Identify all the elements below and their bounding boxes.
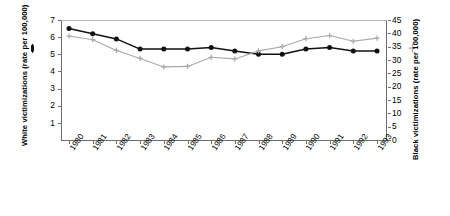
left-axis-tick xyxy=(58,20,61,21)
right-axis-tick-label: 35 xyxy=(392,42,414,50)
left-axis-tick-label: 4 xyxy=(33,67,55,75)
right-axis-tick xyxy=(388,33,391,34)
right-axis-tick xyxy=(388,20,391,21)
chart-figure: White victimizations (rate per 100,000) … xyxy=(0,0,450,216)
right-axis-tick xyxy=(388,113,391,114)
right-axis-tick xyxy=(388,127,391,128)
plot-area xyxy=(61,20,387,140)
right-axis-tick xyxy=(388,100,391,101)
left-axis-tick-label: 7 xyxy=(33,16,55,24)
left-axis-tick-label: 6 xyxy=(33,33,55,41)
right-axis-tick-label: 15 xyxy=(392,96,414,104)
left-axis-tick-label: 2 xyxy=(33,101,55,109)
right-axis-tick xyxy=(388,87,391,88)
right-axis-tick-label: 25 xyxy=(392,69,414,77)
left-axis-tick xyxy=(58,89,61,90)
right-axis-tick xyxy=(388,60,391,61)
left-axis-title-sep xyxy=(20,69,29,71)
left-axis-tick-label: 5 xyxy=(33,50,55,58)
left-axis-tick-label: 1 xyxy=(33,119,55,127)
left-axis-title-line1: White victimizations xyxy=(20,71,29,146)
left-axis-tick xyxy=(58,37,61,38)
right-axis-tick-label: 30 xyxy=(392,56,414,64)
right-axis-tick-label: 40 xyxy=(392,29,414,37)
left-axis-tick xyxy=(58,71,61,72)
right-axis-tick-label: 20 xyxy=(392,82,414,90)
left-axis-title: White victimizations (rate per 100,000) xyxy=(20,30,29,146)
right-axis-tick-label: 10 xyxy=(392,109,414,117)
left-axis-tick xyxy=(58,106,61,107)
left-axis-tick xyxy=(58,54,61,55)
right-axis-tick-label: 45 xyxy=(392,16,414,24)
left-axis-title-line2: (rate per 100,000) xyxy=(20,5,29,69)
right-axis-tick-label: 5 xyxy=(392,122,414,130)
right-axis-tick xyxy=(388,47,391,48)
left-axis-tick xyxy=(58,123,61,124)
left-axis-tick-label: 3 xyxy=(33,84,55,92)
right-axis-tick-label: 0 xyxy=(392,136,414,144)
right-axis-tick xyxy=(388,73,391,74)
